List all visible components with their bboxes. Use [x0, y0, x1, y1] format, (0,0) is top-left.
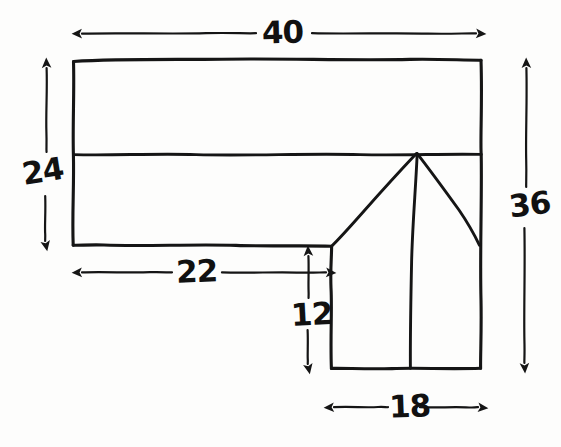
interior-lines [73, 154, 481, 369]
dimension-40-left-segment [82, 33, 256, 34]
edge-bottom-lower [331, 368, 480, 369]
edge-top [74, 59, 482, 61]
gable-left-line [332, 154, 417, 247]
dimension-label-24: 24 [19, 150, 65, 192]
dimension-label-18: 18 [388, 387, 430, 424]
dimension-40-right-segment [312, 33, 476, 34]
dimension-label-36: 36 [507, 184, 552, 225]
shape-outline [73, 59, 482, 369]
gable-right-line [417, 154, 479, 246]
gable-center-line [410, 154, 417, 368]
dimension-label-12: 12 [290, 295, 333, 333]
dimension-label-40: 40 [262, 13, 304, 50]
dimension-24-upper-segment [46, 68, 47, 152]
edge-bottom-left [73, 245, 331, 246]
figure-svg [0, 0, 561, 447]
dimension-label-22: 22 [175, 252, 217, 289]
dimension-36-upper-segment [526, 68, 527, 187]
diagram-canvas: 40 24 36 22 12 18 [0, 0, 561, 447]
edge-right [481, 60, 482, 368]
